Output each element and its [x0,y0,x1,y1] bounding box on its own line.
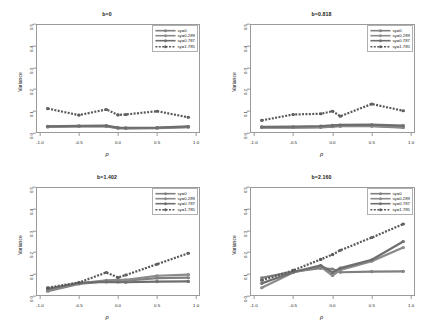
x-tick-label: 0.5 [154,140,160,145]
legend-label: sy=0.787 [391,38,410,43]
x-tick-label: 0.0 [329,140,335,145]
x-tick-mark [196,296,197,299]
legend-label: sy=0.289 [176,196,195,201]
x-tick-mark [118,133,119,136]
legend-item: sy=1.785 [370,207,410,212]
legend-marker-icon [155,207,176,212]
x-tick-label: 0.5 [369,303,375,308]
data-point [371,237,373,238]
legend-item: sy=1.785 [155,207,195,212]
data-point [156,111,158,112]
legend-label: sy=0.289 [176,33,195,38]
legend-label: sy=0.289 [391,33,410,38]
chart-panel-2: b=1.402 Variance 0.00.10.20.30.40.5 -1.0… [0,163,214,326]
x-axis-ticks: -1.0-0.50.00.51.0 [36,296,200,326]
legend-label: sy=0.289 [391,196,410,201]
y-axis-ticks: 0.00.10.20.30.40.5 [0,187,36,296]
x-axis-ticks: -1.0-0.50.00.51.0 [250,133,415,163]
x-tick-mark [254,296,255,299]
data-point [340,116,342,117]
x-tick-mark [293,133,294,136]
x-tick-mark [254,133,255,136]
y-tick-label: 0.4 [243,46,248,52]
data-point [125,114,127,115]
legend-label: sy=0 [391,191,402,196]
legend-label: sy=1.785 [176,44,195,49]
panel-title: b=0 [0,11,214,17]
x-tick-mark [157,133,158,136]
legend-label: sy=0 [176,28,187,33]
x-tick-mark [40,296,41,299]
y-tick-label: 0.3 [243,231,248,237]
data-point [402,224,404,225]
x-tick-mark [332,133,333,136]
x-tick-label: 0.5 [154,303,160,308]
plot-area: sy=0sy=0.289sy=0.787sy=1.785 [36,187,200,296]
x-tick-label: 0.0 [329,303,335,308]
x-tick-label: -1.0 [36,303,44,308]
x-tick-label: -0.5 [289,303,297,308]
y-tick-label: 0.2 [243,252,248,258]
x-tick-label: -1.0 [250,140,258,145]
y-tick-label: 0.0 [243,296,248,302]
legend: sy=0sy=0.289sy=0.787sy=1.785 [152,188,198,215]
y-tick-label: 0.5 [29,187,34,193]
y-tick-label: 0.4 [243,209,248,215]
data-point [105,272,107,273]
chart-panel-1: b=0.818 Variance 0.00.10.20.30.40.5 -1.0… [214,0,429,163]
x-tick-mark [118,296,119,299]
data-point [156,264,158,265]
x-tick-mark [371,133,372,136]
y-tick-label: 0.2 [243,89,248,95]
chart-panel-0: b=0 Variance 0.00.10.20.30.40.5 -1.0-0.5… [0,0,214,163]
legend-label: sy=0.787 [391,201,410,206]
y-tick-label: 0.2 [29,252,34,258]
legend-item: sy=1.785 [155,44,195,49]
x-tick-label: 0.5 [369,140,375,145]
x-tick-label: -1.0 [250,303,258,308]
x-tick-mark [371,296,372,299]
x-tick-label: 1.0 [408,140,414,145]
legend: sy=0sy=0.289sy=0.787sy=1.785 [367,188,413,215]
y-tick-label: 0.1 [29,274,34,280]
plot-area: sy=0sy=0.289sy=0.787sy=1.785 [250,187,415,296]
legend-label: sy=0 [391,28,402,33]
legend-label: sy=1.785 [391,44,410,49]
x-tick-mark [411,296,412,299]
y-tick-label: 0.2 [29,89,34,95]
x-tick-label: -0.5 [75,140,83,145]
y-tick-label: 0.3 [29,68,34,74]
x-tick-label: 0.0 [115,140,121,145]
legend-label: sy=0.787 [176,201,195,206]
y-tick-label: 0.1 [243,111,248,117]
y-tick-label: 0.4 [29,209,34,215]
y-axis-ticks: 0.00.10.20.30.40.5 [214,187,250,296]
x-tick-label: 1.0 [193,303,199,308]
x-axis-label: ρ [0,151,214,157]
y-tick-label: 0.1 [29,111,34,117]
legend-marker-icon [370,207,391,212]
legend-item: sy=1.785 [370,44,410,49]
data-point [371,103,373,104]
y-axis-ticks: 0.00.10.20.30.40.5 [214,24,250,133]
chart-panel-grid: b=0 Variance 0.00.10.20.30.40.5 -1.0-0.5… [0,0,429,326]
data-point [340,250,342,251]
x-tick-label: -0.5 [75,303,83,308]
x-tick-mark [79,133,80,136]
panel-title: b=1.402 [0,174,214,180]
x-axis-ticks: -1.0-0.50.00.51.0 [250,296,415,326]
x-tick-mark [196,133,197,136]
panel-title: b=2.160 [214,174,429,180]
y-tick-label: 0.0 [29,133,34,139]
y-tick-label: 0.3 [243,68,248,74]
legend-marker-icon [370,44,391,49]
legend-label: sy=1.785 [391,207,410,212]
legend-label: sy=0 [176,191,187,196]
y-tick-label: 0.5 [243,187,248,193]
y-tick-label: 0.4 [29,46,34,52]
x-tick-mark [40,133,41,136]
x-tick-mark [157,296,158,299]
legend: sy=0sy=0.289sy=0.787sy=1.785 [367,25,413,52]
x-tick-label: 0.0 [115,303,121,308]
plot-area: sy=0sy=0.289sy=0.787sy=1.785 [250,24,415,133]
